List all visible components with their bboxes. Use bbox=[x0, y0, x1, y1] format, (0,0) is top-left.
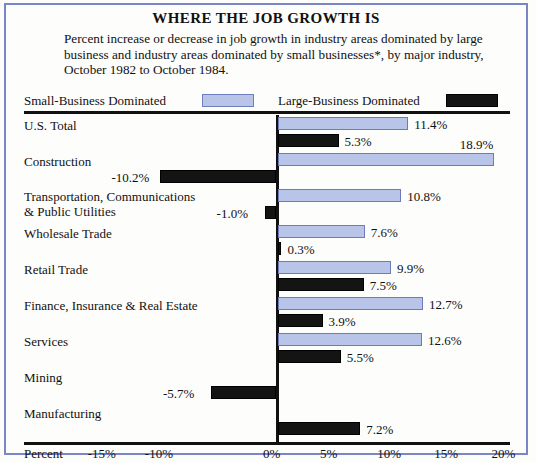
x-axis-rule bbox=[24, 442, 510, 445]
chart-row: Mining-5.7% bbox=[6, 369, 536, 399]
bar-small-business bbox=[278, 297, 423, 310]
bar-large-business bbox=[265, 206, 276, 219]
bar-value-label: 12.7% bbox=[429, 298, 463, 311]
bar-large-business bbox=[160, 170, 276, 183]
category-label: Retail Trade bbox=[24, 262, 274, 277]
category-label: Mining bbox=[24, 370, 274, 385]
legend-swatch-small-business bbox=[202, 94, 254, 107]
plot-top-rule bbox=[24, 111, 510, 114]
bar-large-business bbox=[278, 314, 323, 327]
chart-row: Wholesale Trade7.6%0.3% bbox=[6, 225, 536, 255]
category-label: Services bbox=[24, 334, 274, 349]
page-title: WHERE THE JOB GROWTH IS bbox=[6, 10, 526, 27]
bar-value-label: -1.0% bbox=[217, 207, 248, 220]
bar-large-business bbox=[278, 422, 360, 435]
legend-swatch-large-business bbox=[446, 94, 498, 107]
axis-title-percent: Percent bbox=[24, 446, 63, 462]
chart-row: Construction18.9%-10.2% bbox=[6, 153, 536, 183]
bar-value-label: 5.5% bbox=[347, 351, 374, 364]
axis-tick-label: 5% bbox=[320, 446, 337, 462]
x-axis-labels: Percent -15%-10%0%5%10%15%20% bbox=[6, 446, 536, 463]
bar-small-business bbox=[278, 225, 365, 238]
bar-value-label: -10.2% bbox=[112, 171, 150, 184]
chart-legend: Small-Business Dominated Large-Business … bbox=[6, 93, 526, 111]
bar-value-label: -5.7% bbox=[163, 387, 194, 400]
axis-tick-label: 0% bbox=[263, 446, 280, 462]
chart-row: Transportation, Communications & Public … bbox=[6, 189, 536, 219]
bar-small-business bbox=[278, 189, 401, 202]
chart-frame: WHERE THE JOB GROWTH IS Percent increase… bbox=[4, 3, 528, 455]
bar-large-business bbox=[211, 386, 276, 399]
chart-plot-area: U.S. Total11.4%5.3%Construction18.9%-10.… bbox=[6, 115, 536, 442]
chart-row: Manufacturing7.2% bbox=[6, 405, 536, 435]
bar-small-business bbox=[278, 261, 391, 274]
chart-row: Finance, Insurance & Real Estate12.7%3.9… bbox=[6, 297, 536, 327]
axis-tick-label: 15% bbox=[434, 446, 458, 462]
bar-value-label: 5.3% bbox=[345, 135, 372, 148]
bar-small-business bbox=[278, 153, 494, 166]
bar-value-label: 7.5% bbox=[370, 279, 397, 292]
legend-label-small-business: Small-Business Dominated bbox=[24, 93, 166, 109]
axis-tick-label: -15% bbox=[88, 446, 116, 462]
bar-large-business bbox=[278, 350, 341, 363]
bar-value-label: 9.9% bbox=[397, 262, 424, 275]
chart-row: Retail Trade9.9%7.5% bbox=[6, 261, 536, 291]
bar-value-label: 0.3% bbox=[287, 243, 314, 256]
bar-value-label: 12.6% bbox=[428, 334, 462, 347]
bar-small-business bbox=[278, 117, 408, 130]
bar-value-label: 7.6% bbox=[371, 226, 398, 239]
chart-subtitle: Percent increase or decrease in job grow… bbox=[64, 31, 484, 78]
category-label: Construction bbox=[24, 154, 274, 169]
category-label: Manufacturing bbox=[24, 406, 274, 421]
bar-small-business bbox=[278, 333, 422, 346]
bar-value-label: 3.9% bbox=[329, 315, 356, 328]
chart-row: U.S. Total11.4%5.3% bbox=[6, 117, 536, 147]
axis-tick-label: 10% bbox=[377, 446, 401, 462]
bar-value-label: 7.2% bbox=[366, 423, 393, 436]
bar-value-label: 10.8% bbox=[407, 190, 441, 203]
axis-tick-label: 20% bbox=[491, 446, 515, 462]
bar-value-label: 18.9% bbox=[460, 138, 494, 151]
bar-large-business bbox=[278, 134, 339, 147]
bar-large-business bbox=[278, 278, 364, 291]
legend-label-large-business: Large-Business Dominated bbox=[278, 93, 420, 109]
axis-tick-label: -10% bbox=[145, 446, 173, 462]
category-label: U.S. Total bbox=[24, 118, 274, 133]
category-label: Wholesale Trade bbox=[24, 226, 274, 241]
chart-row: Services12.6%5.5% bbox=[6, 333, 536, 363]
bar-value-label: 11.4% bbox=[414, 118, 447, 131]
bar-large-business bbox=[278, 242, 281, 255]
category-label: Finance, Insurance & Real Estate bbox=[24, 298, 274, 313]
